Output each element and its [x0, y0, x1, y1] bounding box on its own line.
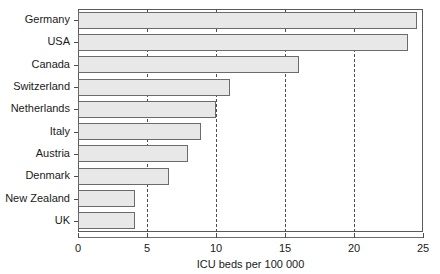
bar-netherlands: [78, 101, 216, 118]
bar-germany: [78, 12, 417, 29]
category-label-netherlands: Netherlands: [11, 103, 70, 114]
x-tick-label-0: 0: [58, 243, 98, 254]
category-label-canada: Canada: [31, 59, 70, 70]
x-tick-label-15: 15: [265, 243, 305, 254]
bar-uk: [78, 212, 135, 229]
category-label-usa: USA: [47, 36, 70, 47]
category-label-switzerland: Switzerland: [13, 81, 70, 92]
x-tickmark-0: [78, 233, 79, 238]
category-label-uk: UK: [55, 215, 70, 226]
y-tickmark-italy: [74, 132, 78, 133]
x-axis-title: ICU beds per 100 000: [78, 259, 423, 270]
x-tick-label-20: 20: [334, 243, 374, 254]
category-label-germany: Germany: [25, 14, 70, 25]
x-tickmark-5: [147, 233, 148, 238]
y-tickmark-germany: [74, 20, 78, 21]
category-label-italy: Italy: [50, 126, 70, 137]
category-label-austria: Austria: [36, 148, 70, 159]
x-tick-label-10: 10: [196, 243, 236, 254]
bar-switzerland: [78, 79, 230, 96]
x-tickmark-10: [216, 233, 217, 238]
bar-new-zealand: [78, 190, 135, 207]
y-tickmark-switzerland: [74, 87, 78, 88]
bar-denmark: [78, 168, 169, 185]
y-tickmark-austria: [74, 154, 78, 155]
x-tickmark-25: [423, 233, 424, 238]
y-tickmark-netherlands: [74, 109, 78, 110]
y-tickmark-new-zealand: [74, 199, 78, 200]
icu-beds-bar-chart: GermanyUSACanadaSwitzerlandNetherlandsIt…: [0, 0, 440, 274]
bar-italy: [78, 123, 201, 140]
category-label-new-zealand: New Zealand: [5, 193, 70, 204]
x-axis: [78, 237, 423, 238]
y-tickmark-uk: [74, 221, 78, 222]
y-tickmark-usa: [74, 42, 78, 43]
bar-canada: [78, 56, 299, 73]
y-tickmark-denmark: [74, 176, 78, 177]
bar-usa: [78, 34, 408, 51]
bar-austria: [78, 145, 188, 162]
x-tickmark-20: [354, 233, 355, 238]
x-tickmark-15: [285, 233, 286, 238]
x-tick-label-25: 25: [403, 243, 440, 254]
category-label-denmark: Denmark: [25, 170, 70, 181]
y-tickmark-canada: [74, 65, 78, 66]
x-tick-label-5: 5: [127, 243, 167, 254]
